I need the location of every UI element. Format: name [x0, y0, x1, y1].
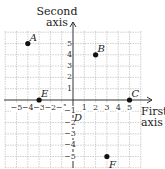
- y-tick-label: 1: [67, 84, 72, 93]
- x-tick-label: −2: [44, 103, 56, 112]
- x-tick-label: 1: [82, 103, 87, 112]
- coordinate-plane: [0, 0, 165, 168]
- y-tick-label: −5: [64, 152, 76, 161]
- y-tick-label: −4: [64, 140, 76, 149]
- y-tick-label: 2: [67, 72, 72, 81]
- point-label-f: F: [109, 159, 116, 169]
- point-label-d: D: [74, 112, 82, 123]
- x-tick-label: 3: [104, 103, 109, 112]
- point-label-c: C: [132, 88, 140, 99]
- x-tick-label: −4: [22, 103, 34, 112]
- y-tick-label: 3: [67, 61, 72, 70]
- point-label-b: B: [98, 43, 105, 54]
- x-tick-label: 5: [127, 103, 132, 112]
- x-tick-label: −3: [33, 103, 45, 112]
- y-tick-label: −3: [64, 129, 76, 138]
- point-label-e: E: [41, 88, 48, 99]
- x-tick-label: 4: [116, 103, 121, 112]
- y-axis-title: Second axis: [34, 6, 80, 28]
- point-label-a: A: [30, 32, 37, 43]
- y-tick-label: 5: [67, 39, 72, 48]
- x-axis-title: First axis: [141, 106, 165, 128]
- x-tick-label: −5: [11, 103, 23, 112]
- x-tick-label: 2: [93, 103, 98, 112]
- y-tick-label: 4: [67, 50, 72, 59]
